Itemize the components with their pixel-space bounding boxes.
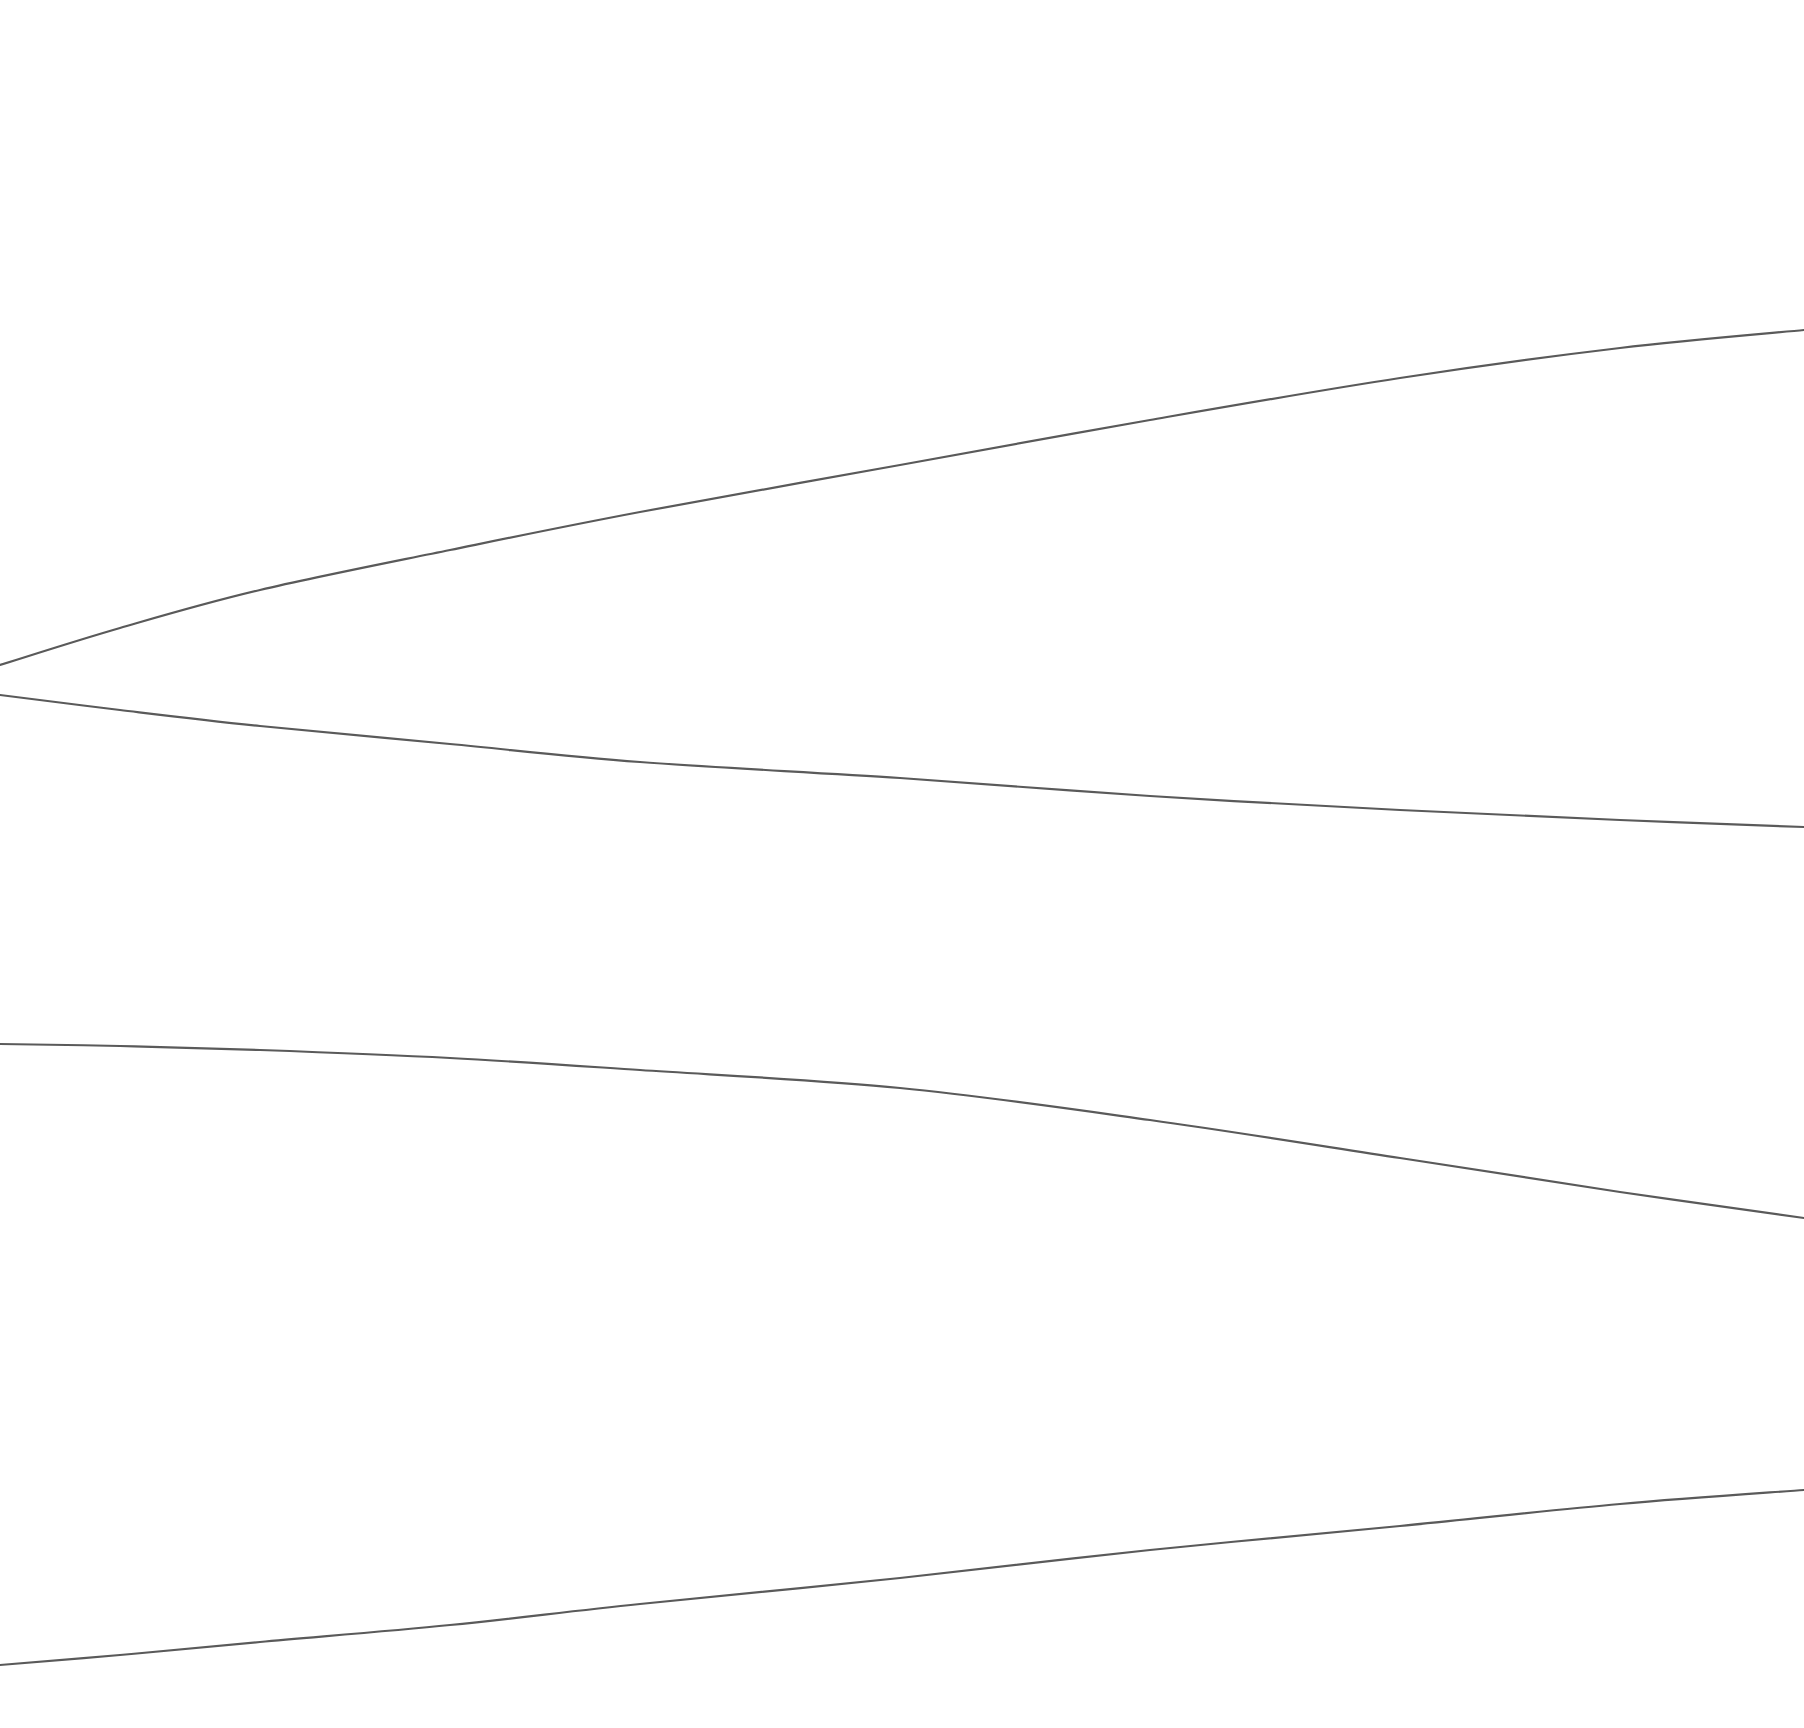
plot-canvas: [0, 0, 1804, 1728]
curve-plot-svg: [0, 0, 1804, 1728]
plot-background: [0, 0, 1804, 1728]
